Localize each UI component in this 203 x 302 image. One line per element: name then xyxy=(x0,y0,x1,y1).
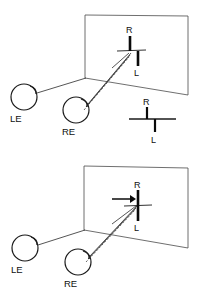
left-eye-sight-line xyxy=(38,230,85,245)
nonius-label-l: L xyxy=(134,68,139,78)
nonius-label-l: L xyxy=(134,223,139,233)
fused-alignment-panel: R L LE RE xyxy=(11,166,188,289)
left-eye-nose-marker xyxy=(30,86,36,94)
left-eye-sight-line xyxy=(37,78,86,93)
diagram-canvas: R L LE RE R L xyxy=(0,0,203,302)
right-eye-sight-line-upper xyxy=(88,53,131,104)
right-eye-sight-line-lower xyxy=(88,208,136,259)
right-eye-label: RE xyxy=(64,278,77,289)
nonius-label-r: R xyxy=(126,25,133,35)
projection-screen xyxy=(85,15,188,95)
stereo-vision-diagram: R L LE RE R L xyxy=(0,0,203,302)
nonius-detail-inset: R L xyxy=(129,97,176,145)
inset-label-l: L xyxy=(151,135,156,145)
right-eye-label: RE xyxy=(62,126,75,137)
inset-label-r: R xyxy=(143,97,150,107)
right-eye-nose-marker xyxy=(81,99,87,107)
right-eye-nose-marker xyxy=(83,251,89,259)
right-eye-sight-line-lower xyxy=(86,55,130,107)
right-eye-sight-line-dashed xyxy=(84,57,129,110)
left-eye-label: LE xyxy=(10,113,22,124)
shift-arrow xyxy=(112,195,136,203)
nonius-label-r: R xyxy=(134,180,141,190)
right-eye-sight-line-upper xyxy=(90,206,137,256)
left-eye-nose-marker xyxy=(31,237,37,245)
left-eye-label: LE xyxy=(11,264,23,275)
uncrossed-disparity-panel: R L LE RE R L xyxy=(10,15,188,145)
nonius-horizontal-line xyxy=(117,50,146,51)
right-eye-sight-line-dashed xyxy=(86,210,135,262)
